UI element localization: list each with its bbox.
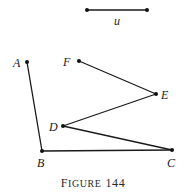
point-e — [154, 92, 158, 96]
polygonal-path — [27, 61, 172, 151]
point-label-a: A — [12, 56, 21, 70]
point-label-f: F — [62, 55, 71, 69]
point-label-d: D — [48, 120, 58, 134]
figure-caption: FIGURE144 — [61, 176, 126, 190]
segment-ef — [79, 61, 156, 94]
point-b — [40, 149, 44, 153]
point-c — [170, 148, 174, 152]
point-label-e: E — [160, 88, 169, 102]
point-label-c: C — [167, 156, 176, 170]
labeled-points: AFEDBC — [12, 55, 176, 170]
segment-de — [63, 94, 156, 126]
figure-canvas: u AFEDBC FIGURE144 — [0, 0, 188, 195]
segment-bc — [42, 150, 172, 151]
unit-segment-label: u — [114, 14, 120, 28]
segment-cd — [63, 126, 172, 150]
point-f — [77, 59, 81, 63]
unit-segment-endpoint — [85, 8, 89, 12]
unit-segment-endpoint — [145, 8, 149, 12]
segment-ab — [27, 62, 42, 151]
point-d — [61, 124, 65, 128]
point-a — [25, 60, 29, 64]
point-label-b: B — [37, 156, 45, 170]
